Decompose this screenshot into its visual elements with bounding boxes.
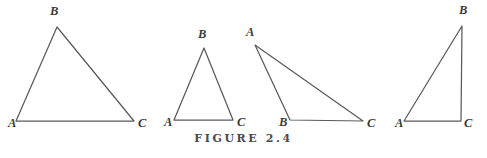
figure-container: A B C A B C A B C A B C FIGURE 2.4 xyxy=(0,0,487,158)
triangle-1-vertex-label-a: A xyxy=(8,117,16,130)
triangle-2-vertex-label-c: C xyxy=(237,116,245,129)
triangle-3-outline xyxy=(255,45,363,121)
triangle-3-vertex-label-a: A xyxy=(246,26,254,39)
triangle-1-outline xyxy=(16,27,134,121)
triangle-4-vertex-label-c: C xyxy=(464,117,472,130)
triangle-2-outline xyxy=(174,48,233,120)
triangle-1-vertex-label-b: B xyxy=(50,5,58,18)
triangle-1-vertex-label-c: C xyxy=(138,117,146,130)
triangle-3-vertex-label-c: C xyxy=(367,117,375,130)
triangle-4-outline xyxy=(404,26,462,121)
figure-caption: FIGURE 2.4 xyxy=(0,132,487,145)
triangle-2-vertex-label-a: A xyxy=(164,116,172,129)
triangle-4-vertex-label-b: B xyxy=(459,4,467,17)
triangle-4-vertex-label-a: A xyxy=(395,117,403,130)
triangle-2-vertex-label-b: B xyxy=(198,28,206,41)
triangle-3-vertex-label-b: B xyxy=(279,116,287,129)
